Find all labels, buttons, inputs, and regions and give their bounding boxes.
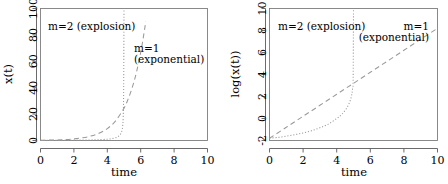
y-tick-label-right-10: 10	[256, 2, 269, 16]
y-tick-label-left-100: 100	[27, 0, 40, 19]
x-tick-label-left-2: 2	[70, 154, 77, 167]
x-tick-label-right-6: 6	[367, 154, 374, 167]
x-tick-label-left-0: 0	[37, 154, 44, 167]
x-tick-label-right-8: 8	[400, 154, 407, 167]
x-axis-title-left: time	[111, 165, 137, 179]
y-tick-label-left-60: 60	[27, 54, 40, 68]
y-tick-label-right-0: 0	[256, 115, 269, 122]
x-tick-label-right-10: 10	[431, 154, 445, 167]
y-tick-label-left-0: 0	[27, 137, 40, 144]
figure-two-panel-growth-plots: 0 20 40 60 80 100 x(t) 0 2 4	[0, 0, 448, 184]
y-tick-label-left-80: 80	[27, 28, 40, 42]
x-axis-title-right: time	[341, 165, 367, 179]
y-tick-label-right-8: 8	[256, 27, 269, 34]
x-tick-label-right-2: 2	[300, 154, 307, 167]
curve-m1-exponential-left	[41, 22, 146, 141]
chart-panel-left: 0 20 40 60 80 100 x(t) 0 2 4	[0, 0, 224, 184]
x-tick-label-left-10: 10	[201, 154, 215, 167]
annotation-m2-left: m=2 (explosion)	[48, 20, 135, 32]
y-tick-label-right-6: 6	[256, 49, 269, 56]
y-axis-title-right: log(x(t))	[228, 50, 242, 97]
annotation-m2-right: m=2 (explosion)	[278, 20, 365, 32]
y-axis-right: -2 0 2 4 6 8 10	[256, 2, 269, 146]
annotation-m1-right-line2: (exponential)	[359, 31, 429, 43]
x-tick-label-left-8: 8	[171, 154, 178, 167]
chart-panel-right: -2 0 2 4 6 8 10 log(x(t)) 0 2	[224, 0, 448, 184]
y-tick-label-left-40: 40	[27, 81, 40, 95]
y-tick-label-left-20: 20	[27, 107, 40, 121]
y-axis-title-left: x(t)	[1, 64, 15, 84]
x-tick-label-left-4: 4	[104, 154, 111, 167]
y-tick-label-right-4: 4	[256, 71, 269, 78]
y-axis-left: 0 20 40 60 80 100	[27, 0, 40, 144]
annotation-m1-left-line2: (exponential)	[134, 53, 204, 65]
x-tick-label-right-0: 0	[266, 154, 273, 167]
y-tick-label-right-2: 2	[256, 93, 269, 100]
x-tick-label-right-4: 4	[333, 154, 340, 167]
annotation-m1-right: m=1 (exponential)	[359, 20, 429, 43]
y-tick-label-right-neg2: -2	[256, 135, 269, 146]
annotation-m1-left: m=1 (exponential)	[134, 42, 204, 65]
x-tick-label-left-6: 6	[137, 154, 144, 167]
